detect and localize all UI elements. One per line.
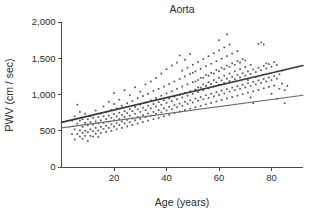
data-point <box>166 68 168 70</box>
data-point <box>168 83 170 85</box>
y-tick-group: 05001,0001,5002,000 <box>32 16 62 172</box>
data-point <box>250 64 252 66</box>
data-point <box>244 86 246 88</box>
data-point <box>200 105 202 107</box>
data-point <box>195 81 197 83</box>
data-point <box>171 100 173 102</box>
data-point <box>124 123 126 125</box>
data-point <box>231 63 233 65</box>
data-point <box>158 101 160 103</box>
data-point <box>113 92 115 94</box>
data-point <box>263 65 265 67</box>
data-point <box>126 102 128 104</box>
data-point <box>189 108 191 110</box>
data-point <box>216 101 218 103</box>
data-point <box>100 132 102 134</box>
data-point <box>137 97 139 99</box>
data-point <box>158 88 160 90</box>
data-point <box>184 101 186 103</box>
data-point <box>221 99 223 101</box>
data-point <box>271 66 273 68</box>
data-point <box>179 78 181 80</box>
data-point <box>87 140 89 142</box>
data-point <box>116 129 118 131</box>
data-point <box>97 116 99 118</box>
data-point <box>239 68 241 70</box>
data-point <box>195 106 197 108</box>
y-tick-label: 0 <box>50 161 55 172</box>
data-point <box>258 89 260 91</box>
data-point <box>111 123 113 125</box>
data-point <box>121 114 123 116</box>
data-point <box>105 131 107 133</box>
data-point <box>139 91 141 93</box>
data-point <box>84 122 86 124</box>
data-point <box>150 107 152 109</box>
data-point <box>132 124 134 126</box>
data-point <box>82 138 84 140</box>
data-point <box>113 113 115 115</box>
data-point <box>108 127 110 129</box>
data-point <box>258 80 260 82</box>
data-point <box>82 132 84 134</box>
data-point <box>155 97 157 99</box>
data-point <box>100 126 102 128</box>
data-point <box>202 84 204 86</box>
data-point <box>150 81 152 83</box>
data-point <box>268 77 270 79</box>
data-point <box>223 47 225 49</box>
data-point <box>145 84 147 86</box>
data-point <box>226 55 228 57</box>
data-point <box>84 113 86 115</box>
data-point <box>234 78 236 80</box>
data-point <box>260 42 262 44</box>
aorta-pwv-scatter-figure: 05001,0001,5002,000 20406080 Aorta Age (… <box>0 0 312 216</box>
data-point <box>226 78 228 80</box>
data-point <box>189 100 191 102</box>
data-point <box>229 80 231 82</box>
y-tick-label: 1,000 <box>32 89 56 100</box>
data-point <box>216 81 218 83</box>
data-point <box>79 136 81 138</box>
data-point <box>95 110 97 112</box>
data-point <box>82 126 84 128</box>
data-point <box>142 95 144 97</box>
data-point <box>218 49 220 51</box>
data-point <box>239 88 241 90</box>
data-point <box>216 60 218 62</box>
data-point <box>137 123 139 125</box>
data-point <box>192 102 194 104</box>
data-point <box>242 93 244 95</box>
data-point <box>74 115 76 117</box>
data-point <box>208 55 210 57</box>
data-point <box>216 69 218 71</box>
data-point <box>237 85 239 87</box>
data-point <box>239 62 241 64</box>
y-axis-title: PWV (cm / sec) <box>3 59 15 132</box>
data-point <box>210 102 212 104</box>
data-point <box>184 59 186 61</box>
data-point <box>155 106 157 108</box>
data-point <box>192 72 194 74</box>
data-point <box>239 77 241 79</box>
data-point <box>213 79 215 81</box>
data-point <box>184 76 186 78</box>
data-point <box>252 69 254 71</box>
data-point <box>273 85 275 87</box>
data-point <box>187 84 189 86</box>
data-point <box>79 120 81 122</box>
data-point <box>271 93 273 95</box>
data-point <box>200 77 202 79</box>
data-point <box>147 93 149 95</box>
data-point <box>111 130 113 132</box>
data-point <box>218 71 220 73</box>
data-point <box>176 98 178 100</box>
data-point <box>213 96 215 98</box>
data-point <box>113 126 115 128</box>
data-point <box>155 77 157 79</box>
data-point <box>250 73 252 75</box>
data-point <box>273 75 275 77</box>
y-tick-label: 500 <box>40 125 56 136</box>
data-point <box>247 71 249 73</box>
data-point <box>103 106 105 108</box>
